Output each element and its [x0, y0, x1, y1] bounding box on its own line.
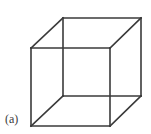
figure-label-a: (a)	[5, 112, 18, 126]
figure-background	[0, 0, 151, 134]
necker-cube-illustration	[0, 0, 151, 134]
figure-container: (a)	[0, 0, 151, 134]
